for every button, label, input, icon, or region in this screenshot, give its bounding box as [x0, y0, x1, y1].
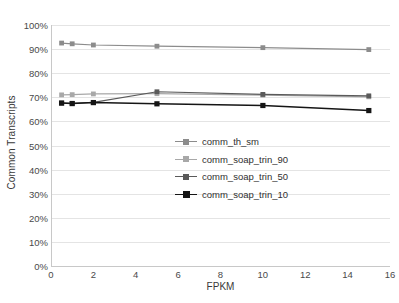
legend-item-comm_soap_trin_50[interactable]: comm_soap_trin_50 — [175, 171, 288, 182]
legend-marker-icon — [175, 172, 197, 181]
x-axis-tick-label: 6 — [163, 269, 193, 280]
data-point-marker — [91, 92, 96, 97]
y-axis-tick-label: 70% — [14, 92, 48, 103]
data-point-marker — [260, 103, 265, 108]
x-axis-title: FPKM — [51, 281, 390, 292]
data-point-marker — [260, 92, 265, 97]
y-axis-tick-label: 100% — [14, 20, 48, 31]
legend-item-comm_th_sm[interactable]: comm_th_sm — [175, 136, 288, 147]
y-axis-tick-label: 20% — [14, 212, 48, 223]
data-point-marker — [59, 100, 64, 105]
legend-item-label: comm_soap_trin_10 — [202, 189, 288, 200]
x-axis-tick-label: 8 — [206, 269, 236, 280]
legend-item-label: comm_soap_trin_90 — [202, 154, 288, 165]
legend-item-label: comm_th_sm — [202, 136, 259, 147]
y-axis-tick-label: 40% — [14, 164, 48, 175]
y-axis-tick-label: 10% — [14, 236, 48, 247]
x-axis-tick-label: 14 — [333, 269, 363, 280]
y-axis-tick-label: 30% — [14, 188, 48, 199]
data-point-marker — [366, 108, 371, 113]
legend-item-comm_soap_trin_10[interactable]: comm_soap_trin_10 — [175, 189, 288, 200]
y-axis-tick-labels: 0%10%20%30%40%50%60%70%80%90%100% — [8, 0, 48, 303]
x-axis-tick-label: 2 — [78, 269, 108, 280]
y-axis-tick-label: 90% — [14, 44, 48, 55]
data-point-marker — [59, 92, 64, 97]
legend-marker-icon — [175, 137, 197, 146]
data-point-marker — [70, 101, 75, 106]
x-axis-tick-label: 10 — [248, 269, 278, 280]
chart-container: Common Transcripts 0%10%20%30%40%50%60%7… — [0, 0, 399, 303]
x-axis-tick-labels: 0246810121416 — [51, 25, 390, 85]
series-line — [62, 103, 369, 111]
x-axis-tick-label: 4 — [121, 269, 151, 280]
data-point-marker — [91, 100, 96, 105]
x-axis-line — [51, 266, 390, 267]
data-point-marker — [154, 101, 159, 106]
chart-legend: comm_th_smcomm_soap_trin_90comm_soap_tri… — [175, 136, 288, 200]
data-point-marker — [70, 92, 75, 97]
series-comm_soap_trin_10 — [59, 100, 371, 113]
x-axis-tick-label: 0 — [36, 269, 66, 280]
x-axis-tick-label: 16 — [375, 269, 399, 280]
y-axis-tick-label: 50% — [14, 140, 48, 151]
legend-item-comm_soap_trin_90[interactable]: comm_soap_trin_90 — [175, 154, 288, 165]
legend-item-label: comm_soap_trin_50 — [202, 171, 288, 182]
data-point-marker — [155, 89, 160, 94]
y-axis-tick-label: 80% — [14, 68, 48, 79]
data-point-marker — [366, 93, 371, 98]
x-axis-tick-label: 12 — [290, 269, 320, 280]
legend-marker-icon — [175, 190, 197, 199]
legend-marker-icon — [175, 155, 197, 164]
y-axis-tick-label: 60% — [14, 116, 48, 127]
